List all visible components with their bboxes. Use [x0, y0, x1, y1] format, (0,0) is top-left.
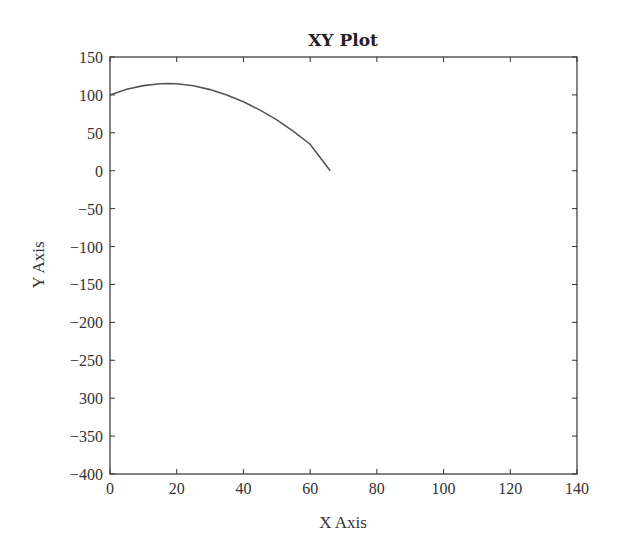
xy-plot-chart: XY Plot 020406080100120140 150100500−50−… [0, 0, 622, 557]
x-tick-label: 0 [106, 480, 114, 497]
x-tick-label: 140 [565, 480, 589, 497]
y-axis-label: Y Axis [29, 241, 48, 288]
y-tick-label: 300 [79, 390, 103, 407]
y-tick-label: −150 [70, 276, 103, 293]
x-tick-label: 80 [369, 480, 385, 497]
x-axis-label: X Axis [319, 513, 367, 532]
chart-title: XY Plot [308, 30, 378, 50]
y-tick-label: −50 [78, 201, 103, 218]
y-tick-label: 100 [79, 87, 103, 104]
y-axis-ticks: 150100500−50−100−150−200−250300−350−400 [70, 49, 577, 483]
data-line [110, 84, 330, 171]
plot-area-frame [110, 57, 577, 474]
x-tick-label: 100 [432, 480, 456, 497]
y-tick-label: −100 [70, 239, 103, 256]
x-tick-label: 20 [169, 480, 185, 497]
x-tick-label: 120 [498, 480, 522, 497]
x-axis-ticks: 020406080100120140 [106, 57, 589, 497]
y-tick-label: −350 [70, 428, 103, 445]
x-tick-label: 40 [235, 480, 251, 497]
x-tick-label: 60 [302, 480, 318, 497]
y-tick-label: 50 [87, 125, 103, 142]
y-tick-label: −250 [70, 352, 103, 369]
y-tick-label: −400 [70, 466, 103, 483]
y-tick-label: 0 [95, 163, 103, 180]
y-tick-label: −200 [70, 314, 103, 331]
y-tick-label: 150 [79, 49, 103, 66]
